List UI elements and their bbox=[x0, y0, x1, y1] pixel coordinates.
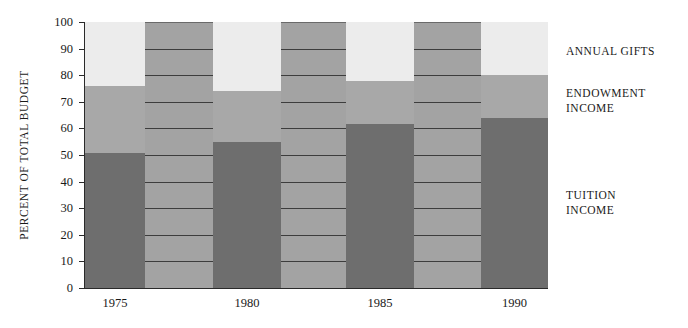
gridline bbox=[85, 261, 548, 262]
legend-item: ANNUAL GIFTS bbox=[566, 44, 655, 59]
bar-segment-endowment[interactable] bbox=[346, 81, 414, 124]
x-tick-label: 1990 bbox=[481, 295, 548, 311]
legend-item: TUITION INCOME bbox=[566, 188, 616, 218]
bar-segment-endowment[interactable] bbox=[481, 75, 548, 118]
bar-segment-tuition[interactable] bbox=[481, 118, 548, 288]
bar-segment-gifts[interactable] bbox=[481, 22, 548, 75]
y-tick-label: 40 bbox=[61, 175, 74, 189]
bar[interactable] bbox=[213, 22, 281, 288]
bar-segment-gifts[interactable] bbox=[85, 22, 145, 86]
gridline bbox=[85, 49, 548, 50]
plot-area bbox=[85, 22, 548, 288]
x-axis-line bbox=[85, 288, 548, 289]
gridline bbox=[85, 182, 548, 183]
bar-segment-gifts[interactable] bbox=[346, 22, 414, 81]
bar[interactable] bbox=[346, 22, 414, 288]
x-tick-label: 1980 bbox=[213, 295, 281, 311]
x-tick-label: 1985 bbox=[346, 295, 414, 311]
gridline bbox=[85, 22, 548, 23]
gridline bbox=[85, 208, 548, 209]
y-tick-label: 100 bbox=[54, 15, 73, 29]
y-tick-label: 30 bbox=[61, 201, 74, 215]
bar-segment-endowment[interactable] bbox=[85, 86, 145, 153]
y-axis-line bbox=[84, 22, 85, 289]
y-tick-label: 0 bbox=[67, 281, 73, 295]
bar-segment-tuition[interactable] bbox=[213, 142, 281, 288]
y-tick-label: 70 bbox=[61, 95, 74, 109]
y-tick-label: 50 bbox=[61, 148, 74, 162]
y-axis-tick-labels: 0102030405060708090100 bbox=[0, 0, 85, 328]
bar-segment-gifts[interactable] bbox=[213, 22, 281, 91]
x-tick-label: 1975 bbox=[85, 295, 145, 311]
bar[interactable] bbox=[85, 22, 145, 288]
y-tick-label: 60 bbox=[61, 121, 74, 135]
bar[interactable] bbox=[481, 22, 548, 288]
legend-item: ENDOWMENT INCOME bbox=[566, 86, 646, 116]
y-tick-label: 80 bbox=[61, 68, 74, 82]
bar-segment-tuition[interactable] bbox=[85, 152, 145, 288]
bar-segment-endowment[interactable] bbox=[213, 91, 281, 142]
stacked-bar-chart: PERCENT OF TOTAL BUDGET 0102030405060708… bbox=[0, 0, 688, 328]
bar-segment-tuition[interactable] bbox=[346, 123, 414, 288]
y-tick-label: 90 bbox=[61, 42, 74, 56]
gridline bbox=[85, 75, 548, 76]
y-tick-label: 10 bbox=[61, 254, 74, 268]
gridline bbox=[85, 155, 548, 156]
y-tick-label: 20 bbox=[61, 228, 74, 242]
gridline bbox=[85, 102, 548, 103]
gridline bbox=[85, 128, 548, 129]
gridline bbox=[85, 235, 548, 236]
